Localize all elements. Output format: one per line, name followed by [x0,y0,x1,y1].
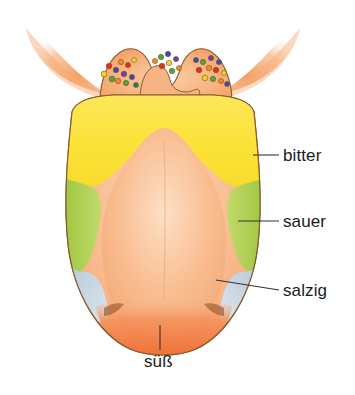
label-bitter: bitter [283,146,321,166]
papilla-dot [222,71,227,76]
papilla-dot [109,76,115,82]
papilla-dot [123,80,128,85]
papilla-dot [213,67,218,72]
palatine-arch-left [25,24,112,96]
papilla-dot [176,65,181,70]
papilla-dot [132,58,137,63]
papilla-dot [208,55,213,60]
papilla-dot [169,68,175,74]
papilla-dot [225,82,230,87]
tongue-body-group [62,95,266,358]
label-suess: süß [144,352,173,372]
papilla-dot [118,59,123,64]
papilla-dot [125,62,130,67]
papilla-dot [113,67,118,72]
label-sauer: sauer [283,212,326,232]
papilla-dot [152,58,157,63]
papilla-dot [165,51,170,56]
papilla-dot [134,83,139,88]
papilla-dot [159,63,165,69]
papilla-dot [193,57,198,62]
papilla-dot [202,75,208,81]
papilla-dot [206,65,212,71]
tongue-illustration [0,0,355,395]
papilla-dot [158,54,163,59]
papilla-dot [101,71,107,77]
papilla-dot [115,78,121,84]
papilla-dot [218,78,223,83]
papilla-dot [121,71,127,77]
papilla-dot [166,60,171,65]
papilla-dot [106,63,112,69]
papilla-dot [200,59,205,64]
papilla-dot [216,59,221,64]
papilla-dot [173,56,178,61]
label-salzig: salzig [283,281,327,301]
papilla-dot [196,67,202,73]
tongue-taste-zones-figure: bitter sauer salzig süß [0,0,355,395]
papilla-dot [129,74,134,79]
papilla-dot [210,76,215,81]
